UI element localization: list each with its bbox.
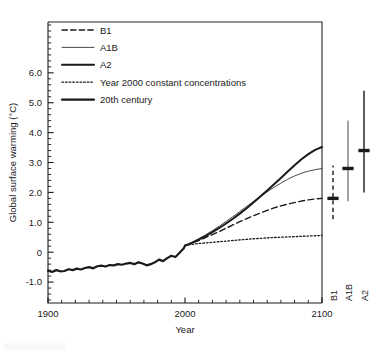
figure-container: -1.001.02.03.04.05.06.0 190020002100 B1A… <box>0 0 383 352</box>
y-tick-label: 4.0 <box>29 127 42 138</box>
legend-label-b1: B1 <box>100 25 112 36</box>
caption-remnant <box>4 342 66 352</box>
y-tick-label: 0 <box>37 247 42 258</box>
legend-label-a2: A2 <box>100 59 112 70</box>
x-tick-label: 2100 <box>311 308 332 319</box>
y-tick-label: 1.0 <box>29 217 42 228</box>
y-axis-title: Global surface warming (°C) <box>7 103 18 222</box>
legend-label-a1b: A1B <box>100 42 118 53</box>
y-tick-label: 6.0 <box>29 67 42 78</box>
y-tick-label: -1.0 <box>26 276 42 287</box>
x-axis-title: Year <box>175 324 194 335</box>
range-bar-label-a2: A2 <box>360 290 370 301</box>
y-tick-label: 5.0 <box>29 97 42 108</box>
legend-label-year-2000-constant-concentrations: Year 2000 constant concentrations <box>100 77 246 88</box>
y-tick-label: 2.0 <box>29 187 42 198</box>
y-tick-label: 3.0 <box>29 157 42 168</box>
legend-label-20th-century: 20th century <box>100 94 153 105</box>
chart-background <box>0 0 383 352</box>
range-bar-label-a1b: A1B <box>344 284 354 301</box>
x-tick-label: 2000 <box>174 308 195 319</box>
global-surface-warming-chart: -1.001.02.03.04.05.06.0 190020002100 B1A… <box>0 0 383 352</box>
range-bar-label-b1: B1 <box>329 290 339 301</box>
x-tick-label: 1900 <box>37 308 58 319</box>
